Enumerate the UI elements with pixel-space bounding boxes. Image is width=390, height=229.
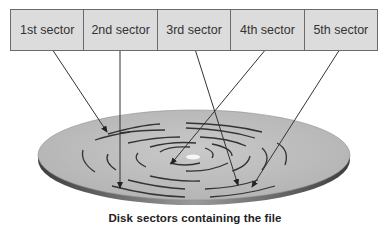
sector-cell-4: 4th sector [231, 10, 304, 50]
sector-cell-5: 5th sector [305, 10, 377, 50]
sector-cell-2: 2nd sector [84, 10, 157, 50]
file-sector-strip: 1st sector 2nd sector 3rd sector 4th sec… [10, 9, 378, 51]
spindle-hole [186, 155, 200, 160]
diagram-caption: Disk sectors containing the file [0, 212, 390, 224]
arrow-1st-sector [52, 49, 107, 132]
sector-cell-3: 3rd sector [158, 10, 231, 50]
sector-cell-1: 1st sector [11, 10, 84, 50]
disk-sectors-diagram: 1st sector 2nd sector 3rd sector 4th sec… [0, 0, 390, 229]
